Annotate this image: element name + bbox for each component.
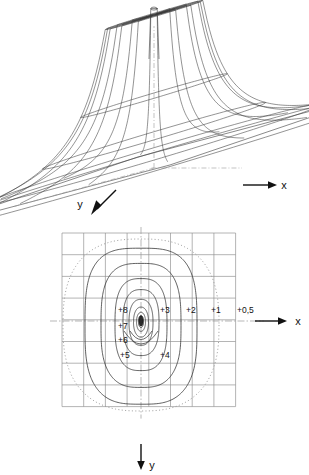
surface-x-axis-label: x bbox=[281, 179, 287, 191]
contour-singularity-core bbox=[139, 316, 143, 326]
surface-mesh-radial bbox=[155, 4, 287, 116]
surface-mesh-radial bbox=[0, 16, 152, 216]
surface-mesh-radial bbox=[0, 16, 152, 219]
surface-base-plane bbox=[0, 89, 309, 233]
contour-label-3: +3 bbox=[160, 305, 170, 315]
figure-root: x y +8+7+6+5+4+3+2+1+0,5 bbox=[0, 0, 309, 475]
contour-y-axis-arrow bbox=[137, 444, 145, 470]
contour-y-axis-label: y bbox=[149, 459, 155, 471]
surface-mesh-radial bbox=[0, 16, 152, 213]
surface-mesh-ring bbox=[0, 85, 309, 240]
contour-label-1: +1 bbox=[211, 305, 221, 315]
contour-label-7: +7 bbox=[118, 321, 128, 331]
surface-plot-svg: x y bbox=[0, 0, 309, 232]
surface-mesh-radial bbox=[64, 15, 153, 178]
surface-mesh-radial bbox=[156, 5, 307, 120]
surface-y-axis-arrow bbox=[91, 190, 116, 215]
contour-label-6: +6 bbox=[118, 335, 128, 345]
contour-center-axes bbox=[50, 227, 264, 419]
contour-label-5: +5 bbox=[120, 350, 130, 360]
contour-x-axis-arrow bbox=[255, 317, 287, 325]
contour-label-8: +8 bbox=[118, 305, 128, 315]
surface-mesh-radial bbox=[155, 9, 219, 132]
surface-mesh-radial bbox=[89, 15, 153, 184]
surface-mesh-radial bbox=[156, 0, 309, 105]
contour-label-2: +2 bbox=[186, 305, 196, 315]
surface-plot-panel: x y bbox=[0, 0, 309, 232]
contour-plot-panel: +8+7+6+5+4+3+2+1+0,5 x y bbox=[0, 228, 309, 475]
surface-wireframe-mesh bbox=[0, 0, 309, 239]
contour-plot-svg: +8+7+6+5+4+3+2+1+0,5 x y bbox=[0, 228, 309, 475]
contour-label-05: +0,5 bbox=[237, 305, 254, 315]
surface-x-axis-arrow bbox=[243, 181, 277, 189]
surface-y-axis-label: y bbox=[77, 198, 83, 210]
contour-label-4: +4 bbox=[160, 350, 170, 360]
contour-level-labels: +8+7+6+5+4+3+2+1+0,5 bbox=[118, 305, 254, 360]
surface-mesh-radial bbox=[21, 15, 153, 203]
contour-x-axis-label: x bbox=[295, 315, 301, 327]
